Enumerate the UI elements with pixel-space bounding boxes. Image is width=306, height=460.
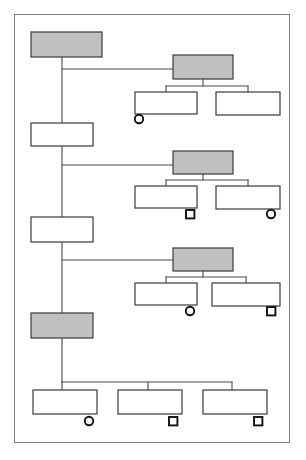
node-cluster-1-head[interactable] (173, 55, 233, 79)
circle-marker-cluster-3-child-1 (186, 307, 194, 315)
node-layer (31, 32, 280, 414)
node-bottom-1[interactable] (33, 390, 97, 414)
node-cluster-3-child-1[interactable] (135, 283, 197, 305)
node-cluster-2-child-1[interactable] (135, 186, 197, 208)
circle-marker-bottom-1 (85, 417, 93, 425)
circle-marker-cluster-2-child-2 (267, 210, 275, 218)
node-cluster-3-head[interactable] (173, 248, 233, 271)
node-cluster-1-child-2[interactable] (216, 92, 280, 115)
node-cluster-2-head[interactable] (173, 151, 233, 174)
circle-marker-cluster-1-child-1 (135, 115, 143, 123)
node-spine-2[interactable] (31, 123, 93, 146)
node-spine-4[interactable] (31, 313, 93, 338)
hierarchy-diagram (0, 0, 306, 460)
node-bottom-2[interactable] (118, 390, 182, 414)
square-marker-cluster-2-child-1 (186, 210, 194, 218)
node-bottom-3[interactable] (203, 390, 267, 414)
node-cluster-2-child-2[interactable] (216, 186, 280, 209)
node-cluster-3-child-2[interactable] (212, 283, 280, 306)
node-spine-3[interactable] (31, 217, 93, 242)
diagram-page (0, 0, 306, 460)
square-marker-bottom-2 (169, 417, 177, 425)
square-marker-bottom-3 (254, 417, 262, 425)
node-cluster-1-child-1[interactable] (135, 92, 197, 114)
square-marker-cluster-3-child-2 (267, 307, 275, 315)
node-spine-1[interactable] (31, 32, 102, 57)
